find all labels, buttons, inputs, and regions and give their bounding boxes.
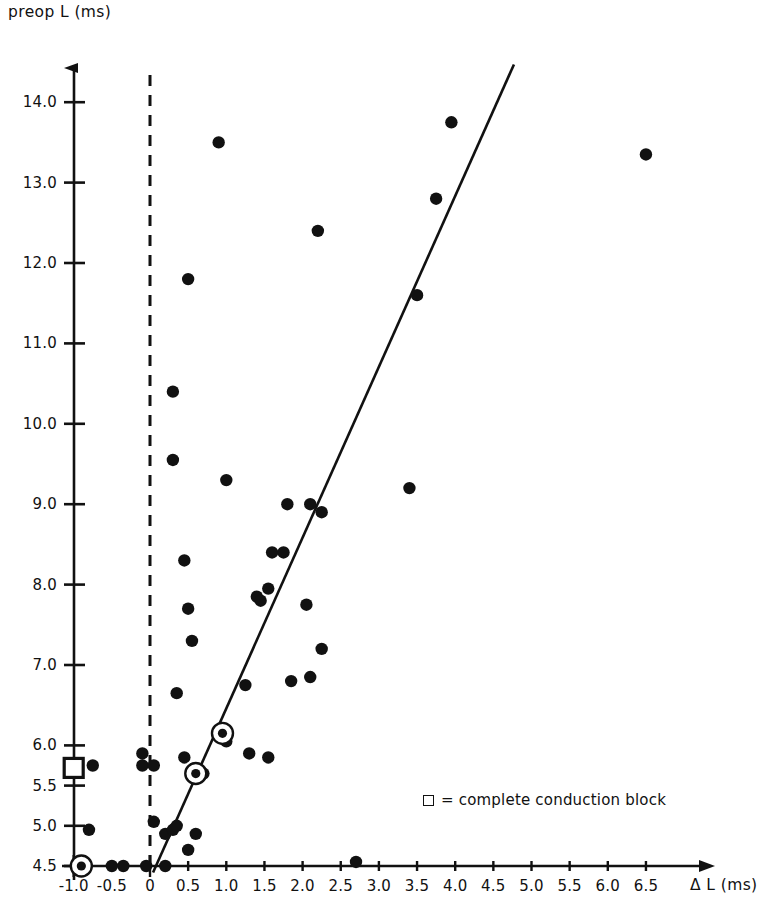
block-square-marker <box>64 758 83 777</box>
data-point <box>136 759 148 771</box>
data-point <box>445 116 457 128</box>
x-tick-label: 5.0 <box>519 877 543 895</box>
data-point <box>640 148 652 160</box>
data-point <box>186 635 198 647</box>
y-tick-label: 11.0 <box>23 334 57 352</box>
x-tick-label: 3.5 <box>405 877 429 895</box>
data-point <box>182 603 194 615</box>
data-point <box>212 136 224 148</box>
conduction-block-center <box>77 861 86 870</box>
x-tick-label: 6.5 <box>634 877 658 895</box>
data-point <box>148 759 160 771</box>
data-point <box>304 498 316 510</box>
data-point <box>262 582 274 594</box>
data-point <box>171 820 183 832</box>
x-tick-label: -0.5 <box>97 877 127 895</box>
x-tick-label: 2.5 <box>329 877 353 895</box>
data-point <box>167 385 179 397</box>
data-point-group <box>83 116 652 872</box>
data-point <box>117 860 129 872</box>
open-square-icon <box>423 795 434 806</box>
y-tick-label: 5.0 <box>33 817 57 835</box>
x-tick-label: 4.0 <box>443 877 467 895</box>
scatter-plot-figure: preop L (ms) Δ L (ms) 4.55.05.56.07.08.0… <box>0 0 777 910</box>
x-tick-label: -1.0 <box>59 877 89 895</box>
y-tick-label: 7.0 <box>33 656 57 674</box>
data-point <box>403 482 415 494</box>
data-point <box>220 474 232 486</box>
block-square-group <box>64 758 83 777</box>
y-tick-label: 9.0 <box>33 495 57 513</box>
y-tick-label: 8.0 <box>33 576 57 594</box>
data-point <box>171 687 183 699</box>
data-point <box>254 594 266 606</box>
y-tick-label: 6.0 <box>33 736 57 754</box>
data-point <box>190 828 202 840</box>
data-point <box>277 546 289 558</box>
y-axis-title: preop L (ms) <box>8 3 111 21</box>
data-point <box>262 751 274 763</box>
data-point <box>136 747 148 759</box>
y-tick-label: 13.0 <box>23 174 57 192</box>
data-point <box>83 824 95 836</box>
data-point <box>159 860 171 872</box>
data-point <box>167 454 179 466</box>
data-point <box>148 816 160 828</box>
data-point <box>285 675 297 687</box>
data-point <box>315 506 327 518</box>
y-tick-label: 10.0 <box>23 415 57 433</box>
x-tick-label: 4.5 <box>481 877 505 895</box>
data-point <box>315 643 327 655</box>
conduction-block-center <box>191 769 200 778</box>
x-tick-label: 6.0 <box>596 877 620 895</box>
data-point <box>178 554 190 566</box>
x-tick-label: 1.0 <box>214 877 238 895</box>
data-point <box>182 844 194 856</box>
data-point <box>350 856 362 868</box>
data-point <box>239 679 251 691</box>
data-point <box>182 273 194 285</box>
data-point <box>304 671 316 683</box>
y-tick-label: 5.5 <box>33 777 57 795</box>
x-tick-label: 2.0 <box>290 877 314 895</box>
x-tick-label: 5.5 <box>557 877 581 895</box>
data-point <box>106 860 118 872</box>
regression-line <box>153 64 514 872</box>
y-tick-label: 12.0 <box>23 254 57 272</box>
data-point <box>243 747 255 759</box>
legend-label: = complete conduction block <box>441 791 666 809</box>
data-point <box>281 498 293 510</box>
x-tick-label: 0.5 <box>176 877 200 895</box>
conduction-block-center <box>218 729 227 738</box>
x-axis-title: Δ L (ms) <box>690 876 758 894</box>
data-point <box>312 225 324 237</box>
y-tick-label: 4.5 <box>33 857 57 875</box>
axes-group <box>62 68 700 880</box>
data-point <box>140 860 152 872</box>
x-tick-label: 0 <box>145 877 155 895</box>
data-point <box>87 759 99 771</box>
legend: = complete conduction block <box>423 791 666 809</box>
plot-canvas <box>0 0 777 910</box>
data-point <box>300 599 312 611</box>
y-tick-label: 14.0 <box>23 93 57 111</box>
data-point <box>411 289 423 301</box>
data-point <box>430 192 442 204</box>
x-tick-label: 3.0 <box>367 877 391 895</box>
x-tick-label: 1.5 <box>252 877 276 895</box>
data-point <box>178 751 190 763</box>
data-point <box>266 546 278 558</box>
